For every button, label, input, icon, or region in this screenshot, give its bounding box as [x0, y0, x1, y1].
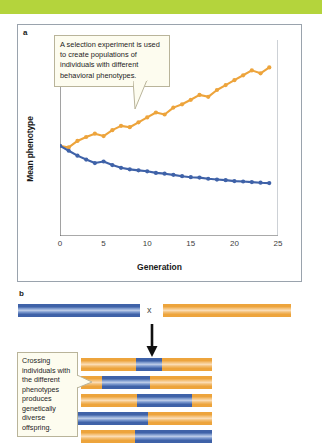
series-marker-1 [110, 163, 114, 167]
top-banner [0, 0, 322, 14]
series-marker-1 [250, 180, 254, 184]
x-axis-label: Generation [17, 262, 302, 272]
series-marker-1 [136, 168, 140, 172]
panel-b-label: b [19, 289, 24, 298]
series-marker-1 [189, 175, 193, 179]
series-marker-0 [110, 128, 114, 132]
series-marker-1 [241, 179, 245, 183]
series-marker-0 [171, 106, 175, 110]
x-tick-label: 10 [143, 239, 152, 248]
x-tick-label: 20 [230, 239, 239, 248]
y-axis-label: Mean phenotype [25, 104, 35, 194]
series-marker-1 [171, 173, 175, 177]
chromosome-segment-orange [148, 412, 212, 425]
series-marker-0 [250, 68, 254, 72]
series-marker-0 [189, 98, 193, 102]
series-marker-1 [154, 171, 158, 175]
series-marker-0 [215, 88, 219, 92]
offspring-chromosome-5 [81, 430, 212, 443]
series-marker-1 [84, 157, 88, 161]
chromosome-segment-blue [102, 376, 150, 389]
offspring-chromosome-2 [81, 376, 212, 389]
series-marker-1 [180, 174, 184, 178]
series-marker-0 [267, 65, 271, 69]
chromosome-segment-orange [150, 376, 212, 389]
offspring-chromosome-4 [75, 412, 212, 425]
callout-crossing-individuals: Crossing individuals with the different … [17, 352, 78, 437]
series-marker-0 [224, 83, 228, 87]
chromosome-segment-orange [81, 394, 137, 407]
series-marker-0 [136, 120, 140, 124]
offspring-chromosome-3 [81, 394, 212, 407]
series-marker-1 [215, 177, 219, 181]
series-marker-1 [93, 161, 97, 165]
chromosome-segment-orange [162, 358, 212, 371]
series-marker-0 [102, 134, 106, 138]
series-marker-0 [128, 125, 132, 129]
callout-b-tail-icon [77, 375, 93, 391]
down-arrow-icon [144, 324, 160, 358]
series-line-1 [60, 146, 269, 183]
chromosome-segment-blue [75, 412, 148, 425]
series-marker-1 [145, 169, 149, 173]
series-marker-0 [145, 115, 149, 119]
chromosome-segment-blue [137, 394, 192, 407]
chromosome-segment-blue [135, 430, 212, 443]
series-marker-0 [93, 132, 97, 136]
chromosome-segment-orange [163, 304, 291, 317]
callout-a-tail-icon [133, 80, 151, 110]
series-marker-0 [232, 78, 236, 82]
chromosome-segment-orange [81, 430, 135, 443]
parent-chromosome-blue [18, 304, 140, 317]
series-marker-0 [258, 71, 262, 75]
series-marker-1 [102, 159, 106, 163]
x-tick-label: 0 [58, 239, 62, 248]
callout-selection-experiment: A selection experiment is used to create… [54, 35, 170, 87]
series-marker-1 [206, 177, 210, 181]
x-tick-label: 15 [186, 239, 195, 248]
series-marker-1 [163, 172, 167, 176]
parent-chromosome-orange [163, 304, 291, 317]
series-marker-0 [241, 73, 245, 77]
series-marker-0 [119, 124, 123, 128]
series-marker-0 [197, 93, 201, 97]
series-marker-1 [67, 149, 71, 153]
series-marker-0 [154, 110, 158, 114]
cross-symbol: x [147, 305, 152, 315]
x-tick-label: 25 [274, 239, 283, 248]
series-marker-1 [128, 167, 132, 171]
chromosome-segment-orange [81, 358, 136, 371]
series-marker-1 [197, 175, 201, 179]
chromosome-segment-orange [192, 394, 212, 407]
series-marker-0 [163, 112, 167, 116]
series-marker-1 [75, 154, 79, 158]
chromosome-segment-blue [136, 358, 162, 371]
series-marker-1 [224, 178, 228, 182]
series-marker-0 [206, 95, 210, 99]
series-marker-1 [119, 166, 123, 170]
series-marker-1 [267, 181, 271, 185]
series-marker-1 [258, 181, 262, 185]
series-marker-0 [180, 102, 184, 106]
x-tick-label: 5 [101, 239, 105, 248]
chromosome-segment-blue [18, 304, 140, 317]
x-axis-tick-labels: 0510152025 [60, 239, 278, 253]
series-marker-0 [84, 135, 88, 139]
offspring-chromosome-1 [81, 358, 212, 371]
series-marker-0 [75, 139, 79, 143]
series-marker-1 [232, 179, 236, 183]
